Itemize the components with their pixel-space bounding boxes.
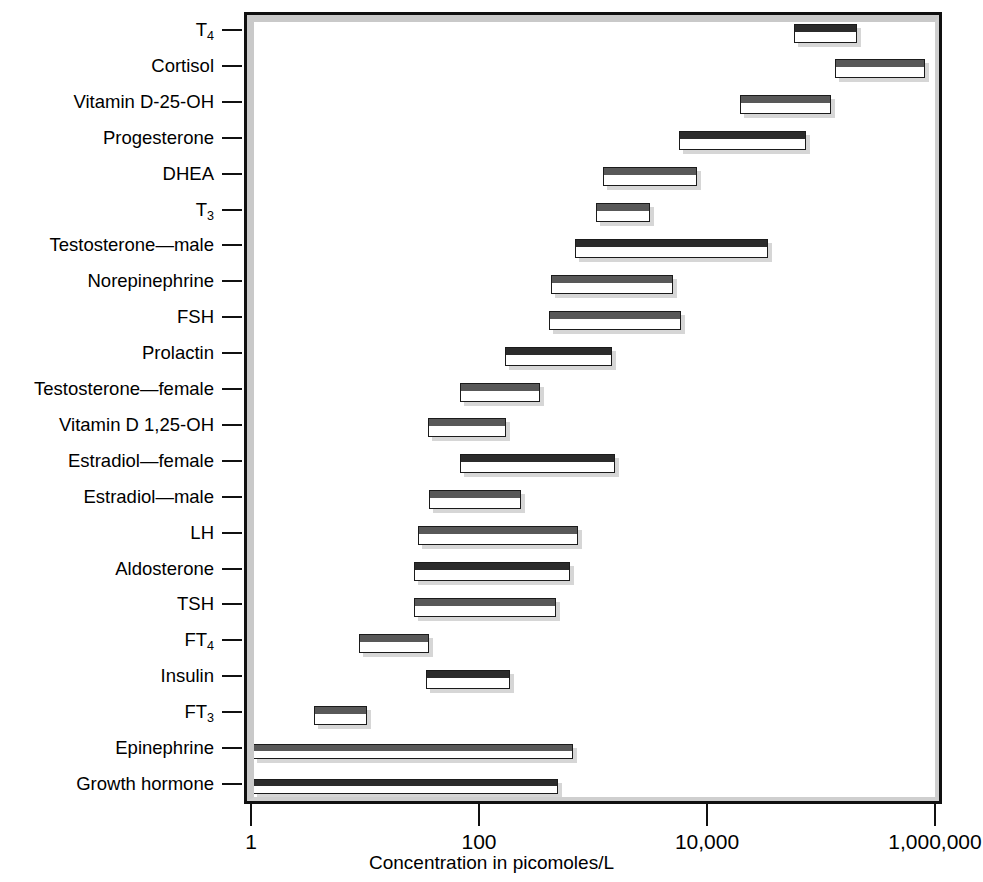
- y-axis-tick: [222, 244, 242, 246]
- y-axis-label: LH: [190, 520, 214, 546]
- range-bar: [460, 454, 615, 473]
- range-bar: [740, 95, 831, 114]
- y-axis-label: Aldosterone: [115, 556, 214, 582]
- range-bar-shade: [836, 60, 923, 67]
- x-axis-tick-label: 100: [461, 830, 496, 854]
- range-bar: [575, 239, 768, 258]
- range-bar: [428, 418, 507, 437]
- range-bar: [253, 744, 573, 759]
- y-axis-tick: [222, 460, 242, 462]
- y-axis-label: FSH: [177, 304, 214, 330]
- range-bar: [603, 167, 697, 186]
- range-bar: [460, 383, 540, 402]
- y-axis-label: Vitamin D-25-OH: [73, 89, 214, 115]
- range-bar-shade: [576, 240, 767, 247]
- y-axis-tick: [222, 783, 242, 785]
- range-bar-shade: [419, 527, 577, 534]
- range-bar: [429, 490, 521, 509]
- range-bar-shade: [254, 780, 557, 786]
- range-bar-shade: [415, 599, 555, 606]
- y-axis-label: T4: [196, 17, 214, 49]
- range-bar-shade: [506, 348, 611, 355]
- range-bar: [835, 59, 924, 78]
- y-axis-tick: [222, 603, 242, 605]
- y-axis-tick: [222, 388, 242, 390]
- y-axis-tick: [222, 675, 242, 677]
- y-axis-tick: [222, 65, 242, 67]
- range-bar-shade: [461, 384, 539, 391]
- y-axis-label: Epinephrine: [115, 735, 214, 761]
- x-axis-tick: [478, 804, 480, 826]
- y-axis-label: Progesterone: [103, 125, 214, 151]
- range-bar-shade: [552, 276, 672, 283]
- y-axis-label: Vitamin D 1,25-OH: [59, 412, 214, 438]
- plot-area: [247, 15, 939, 801]
- y-axis-tick: [222, 101, 242, 103]
- y-axis-tick: [222, 496, 242, 498]
- hormone-concentration-chart: T4CortisolVitamin D-25-OHProgesteroneDHE…: [0, 0, 983, 882]
- range-bar: [414, 562, 569, 581]
- y-axis-tick: [222, 747, 242, 749]
- y-axis-tick: [222, 280, 242, 282]
- y-axis-tick: [222, 137, 242, 139]
- y-axis-label: Insulin: [161, 663, 214, 689]
- y-axis-label: FT4: [184, 627, 214, 659]
- x-axis-tick-label: 10,000: [675, 830, 739, 854]
- x-axis-tick: [706, 804, 708, 826]
- y-axis-tick: [222, 316, 242, 318]
- range-bar-shade: [254, 745, 572, 751]
- y-axis-label: TSH: [177, 591, 214, 617]
- range-bar: [314, 706, 367, 725]
- range-bar: [414, 598, 556, 617]
- range-bar: [505, 347, 612, 366]
- y-axis-tick: [222, 173, 242, 175]
- range-bar: [551, 275, 673, 294]
- range-bar-shade: [430, 491, 520, 498]
- y-axis-label: T3: [196, 197, 214, 229]
- x-axis-tick: [250, 804, 252, 826]
- range-bar: [359, 634, 429, 653]
- x-axis-tick-label: 1,000,000: [888, 830, 981, 854]
- y-axis-label: Cortisol: [151, 53, 214, 79]
- range-bar-shade: [680, 132, 805, 139]
- range-bar: [549, 311, 681, 330]
- range-bar-shade: [597, 204, 649, 211]
- y-axis-label: Testosterone—female: [34, 376, 214, 402]
- range-bar: [418, 526, 578, 545]
- range-bar-shade: [360, 635, 428, 642]
- y-axis-label: Growth hormone: [76, 771, 214, 797]
- y-axis-label: DHEA: [163, 161, 214, 187]
- x-axis-tick-label: 1: [245, 830, 257, 854]
- y-axis-label: Estradiol—male: [83, 484, 214, 510]
- range-bar: [253, 779, 558, 794]
- y-axis-tick: [222, 29, 242, 31]
- y-axis-label: Estradiol—female: [68, 448, 214, 474]
- y-axis-label: Testosterone—male: [49, 232, 214, 258]
- y-axis-tick: [222, 209, 242, 211]
- y-axis-label: FT3: [184, 699, 214, 731]
- y-axis-tick: [222, 532, 242, 534]
- y-axis-label: Norepinephrine: [87, 268, 214, 294]
- y-axis-tick: [222, 711, 242, 713]
- range-bar: [426, 670, 510, 689]
- range-bar: [679, 131, 806, 150]
- range-bar-shade: [429, 419, 506, 426]
- x-axis: 110010,0001,000,000: [244, 804, 942, 806]
- range-bar-shade: [461, 455, 614, 462]
- range-bar-shade: [415, 563, 568, 570]
- y-axis-tick: [222, 639, 242, 641]
- y-axis-label: Prolactin: [142, 340, 214, 366]
- range-bar-shade: [550, 312, 680, 319]
- plot-frame: [244, 12, 942, 804]
- range-bar-shade: [427, 671, 509, 678]
- range-bar-shade: [795, 25, 856, 32]
- y-axis-tick: [222, 568, 242, 570]
- y-axis-tick: [222, 352, 242, 354]
- range-bar: [794, 24, 857, 43]
- y-axis-tick: [222, 424, 242, 426]
- x-axis-tick: [934, 804, 936, 826]
- range-bar-shade: [741, 96, 830, 103]
- range-bar-shade: [604, 168, 696, 175]
- range-bar: [596, 203, 650, 222]
- range-bar-shade: [315, 707, 366, 714]
